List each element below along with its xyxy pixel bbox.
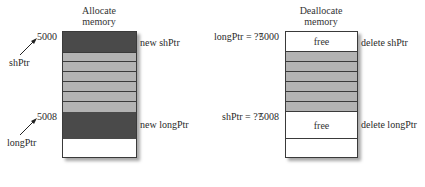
memory-cell bbox=[63, 102, 136, 112]
deallocate-title-line2: memory bbox=[281, 16, 361, 27]
memory-cell bbox=[286, 102, 357, 112]
longptr-undefined-label: longPtr = ?? bbox=[214, 31, 263, 42]
freed-block-longptr: free bbox=[286, 112, 357, 139]
freed-block-shptr: free bbox=[286, 32, 357, 52]
allocated-block-shptr bbox=[63, 32, 136, 52]
address-5000-right: 5000 bbox=[259, 31, 279, 42]
allocated-block-longptr bbox=[63, 112, 136, 139]
memory-cell bbox=[63, 92, 136, 102]
unused-memory bbox=[286, 139, 357, 157]
deallocate-memory-box: free free bbox=[285, 31, 358, 158]
memory-cell bbox=[286, 52, 357, 62]
address-5008-right: 5008 bbox=[259, 111, 279, 122]
new-longptr-label: new longPtr bbox=[140, 119, 189, 130]
unused-memory bbox=[63, 139, 136, 157]
memory-cell bbox=[63, 72, 136, 82]
new-shptr-label: new shPtr bbox=[140, 37, 180, 48]
memory-cell bbox=[63, 62, 136, 72]
deallocate-title-line1: Deallocate bbox=[281, 5, 361, 16]
shptr-undefined-label: shPtr = ?? bbox=[222, 111, 262, 122]
memory-cell bbox=[286, 82, 357, 92]
memory-cell bbox=[63, 82, 136, 92]
delete-longptr-label: delete longPtr bbox=[361, 119, 417, 130]
memory-cell bbox=[286, 62, 357, 72]
memory-cell bbox=[286, 72, 357, 82]
allocate-memory-box bbox=[62, 31, 137, 158]
deallocate-title: Deallocate memory bbox=[281, 5, 361, 27]
memory-cell bbox=[63, 52, 136, 62]
delete-shptr-label: delete shPtr bbox=[361, 37, 408, 48]
memory-cell bbox=[286, 92, 357, 102]
